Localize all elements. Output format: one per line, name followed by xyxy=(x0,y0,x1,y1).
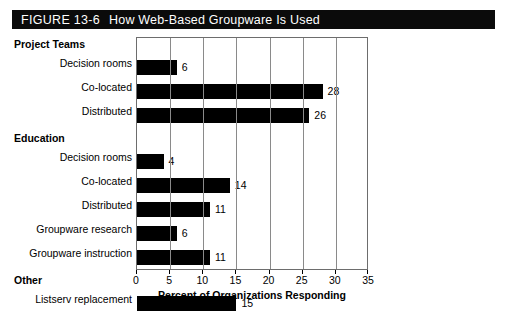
group-heading: Education xyxy=(14,132,65,144)
category-label: Co-located xyxy=(81,81,132,93)
gridline xyxy=(170,38,171,269)
gridline xyxy=(236,38,237,269)
x-tick-label: 30 xyxy=(329,274,341,286)
gridline xyxy=(336,38,337,269)
x-tick-label: 35 xyxy=(362,274,374,286)
bar-chart: Project TeamsDecision roomsCo-locatedDis… xyxy=(0,33,507,314)
category-axis: Project TeamsDecision roomsCo-locatedDis… xyxy=(0,33,136,270)
bar xyxy=(137,84,323,99)
x-tick-label: 5 xyxy=(166,274,172,286)
figure-title-banner: FIGURE 13-6 How Web-Based Groupware Is U… xyxy=(12,10,495,29)
x-tick-label: 15 xyxy=(230,274,242,286)
bar-value-label: 28 xyxy=(328,84,340,99)
x-tick-label: 20 xyxy=(263,274,275,286)
bar-value-label: 6 xyxy=(182,226,188,241)
gridline xyxy=(203,38,204,269)
group-heading: Project Teams xyxy=(14,38,85,50)
category-label: Decision rooms xyxy=(60,151,132,163)
x-tick-label: 0 xyxy=(133,274,139,286)
gridline xyxy=(303,38,304,269)
figure-number: FIGURE 13-6 xyxy=(21,13,100,27)
bar xyxy=(137,178,230,193)
category-label: Distributed xyxy=(82,199,132,211)
figure-title-text: How Web-Based Groupware Is Used xyxy=(109,13,320,27)
gridline xyxy=(270,38,271,269)
bar xyxy=(137,154,164,169)
category-label: Listserv replacement xyxy=(35,293,132,305)
category-label: Groupware research xyxy=(36,223,132,235)
bar xyxy=(137,250,210,265)
category-label: Co-located xyxy=(81,175,132,187)
bar-value-label: 11 xyxy=(215,202,226,217)
x-tick-label: 10 xyxy=(196,274,208,286)
bar xyxy=(137,108,309,123)
category-label: Groupware instruction xyxy=(29,247,132,259)
x-tick-label: 25 xyxy=(296,274,308,286)
x-axis-title: Percent of Organizations Responding xyxy=(136,289,368,301)
bar-value-label: 11 xyxy=(215,250,226,265)
category-label: Decision rooms xyxy=(60,57,132,69)
category-label: Distributed xyxy=(82,105,132,117)
bar-value-label: 6 xyxy=(182,60,188,75)
bar-value-label: 26 xyxy=(314,108,326,123)
x-axis-ticks: 05101520253035 xyxy=(136,270,368,286)
plot-area: 628264141161115 xyxy=(136,37,368,270)
bar xyxy=(137,202,210,217)
group-heading: Other xyxy=(14,274,42,286)
